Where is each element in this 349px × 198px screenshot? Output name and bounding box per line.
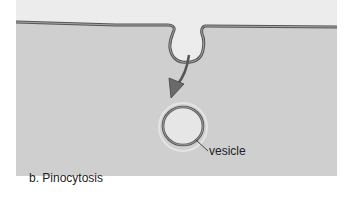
diagram-canvas: [16, 0, 337, 176]
pinocytosis-diagram: vesicle: [16, 0, 337, 176]
vesicle-label: vesicle: [209, 145, 246, 157]
figure-caption: b. Pinocytosis: [29, 172, 103, 184]
